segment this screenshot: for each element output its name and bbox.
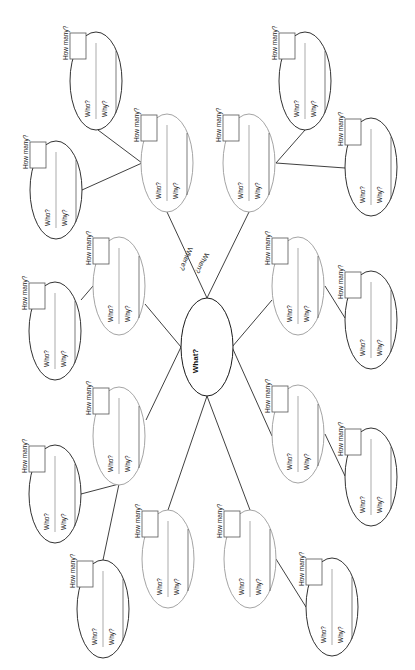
question-node: How many?Who?Why?	[264, 230, 324, 335]
who-label: Who?	[43, 350, 50, 367]
how-many-box[interactable]	[345, 429, 361, 455]
why-label: Why?	[310, 100, 318, 117]
question-node: How many?Who?Why?	[22, 134, 82, 239]
why-label: Why?	[60, 513, 68, 530]
who-label: Who?	[84, 100, 91, 117]
why-label: Why?	[173, 578, 181, 595]
why-label: Why?	[60, 350, 68, 367]
who-label: Who?	[359, 496, 366, 513]
connector-line	[207, 212, 249, 298]
question-node: How many?Who?Why?	[337, 421, 397, 526]
who-label: Who?	[237, 182, 244, 199]
who-label: Who?	[238, 578, 245, 595]
how-many-label: How many?	[62, 25, 70, 60]
why-label: Why?	[376, 339, 384, 356]
how-many-label: How many?	[264, 230, 272, 265]
connector-line	[145, 304, 181, 347]
how-many-label: How many?	[69, 553, 77, 588]
who-label: Who?	[155, 182, 162, 199]
what-ellipse	[181, 298, 233, 396]
connector-line	[82, 163, 142, 190]
who-label: Who?	[293, 100, 300, 117]
who-label: Who?	[107, 455, 114, 472]
how-many-label: How many?	[21, 438, 29, 473]
how-many-label: How many?	[264, 378, 272, 413]
connector-line	[103, 484, 119, 560]
how-many-label: How many?	[133, 107, 141, 142]
question-web-diagram: How many?Who?Why?How many?Who?Why?How ma…	[0, 0, 415, 670]
connector-line	[168, 396, 207, 510]
question-node: How many?Who?Why?	[298, 551, 358, 656]
why-label: Why?	[124, 305, 132, 322]
who-label: Who?	[44, 209, 51, 226]
how-many-label: How many?	[337, 421, 345, 456]
spoke-labels: Where? When?	[178, 246, 210, 274]
how-many-box[interactable]	[306, 559, 322, 585]
how-many-box[interactable]	[141, 115, 157, 141]
how-many-label: How many?	[337, 264, 345, 299]
who-label: Who?	[156, 578, 163, 595]
how-many-label: How many?	[134, 503, 142, 538]
how-many-box[interactable]	[223, 115, 239, 141]
how-many-label: How many?	[85, 230, 93, 265]
question-node: How many?Who?Why?	[133, 107, 193, 212]
how-many-label: How many?	[85, 380, 93, 415]
what-label: What?	[191, 349, 200, 374]
who-label: Who?	[107, 305, 114, 322]
how-many-label: How many?	[337, 111, 345, 146]
why-label: Why?	[124, 455, 132, 472]
who-label: Who?	[359, 339, 366, 356]
diagram-canvas: How many?Who?Why?How many?Who?Why?How ma…	[0, 0, 415, 670]
connector-line	[81, 484, 119, 494]
who-label: Who?	[359, 186, 366, 203]
how-many-box[interactable]	[30, 142, 46, 168]
connector-line	[232, 300, 272, 347]
connector-line	[146, 347, 181, 420]
question-node: How many?Who?Why?	[337, 111, 397, 216]
connector-line	[276, 130, 305, 163]
why-label: Why?	[172, 182, 180, 199]
where-label: Where?	[178, 246, 194, 271]
how-many-label: How many?	[21, 275, 29, 310]
who-label: Who?	[286, 453, 293, 470]
why-label: Why?	[254, 182, 262, 199]
how-many-label: How many?	[216, 503, 224, 538]
how-many-label: How many?	[298, 551, 306, 586]
question-node: How many?Who?Why?	[85, 230, 145, 335]
why-label: Why?	[376, 496, 384, 513]
how-many-box[interactable]	[70, 33, 86, 59]
how-many-box[interactable]	[29, 283, 45, 309]
central-node: What?	[181, 298, 233, 396]
how-many-box[interactable]	[93, 238, 109, 264]
question-node: How many?Who?Why?	[69, 553, 129, 658]
how-many-label: How many?	[22, 134, 30, 169]
how-many-box[interactable]	[142, 511, 158, 537]
question-node: How many?Who?Why?	[216, 503, 276, 608]
question-node: How many?Who?Why?	[21, 438, 81, 543]
question-node: How many?Who?Why?	[62, 25, 122, 130]
how-many-box[interactable]	[272, 238, 288, 264]
how-many-box[interactable]	[272, 386, 288, 412]
when-label: When?	[194, 252, 211, 275]
question-node: How many?Who?Why?	[264, 378, 324, 483]
how-many-box[interactable]	[93, 388, 109, 414]
how-many-box[interactable]	[77, 561, 93, 587]
how-many-box[interactable]	[224, 511, 240, 537]
who-label: Who?	[286, 305, 293, 322]
why-label: Why?	[255, 578, 263, 595]
how-many-box[interactable]	[279, 33, 295, 59]
connector-line	[81, 286, 93, 300]
who-label: Who?	[43, 513, 50, 530]
how-many-box[interactable]	[345, 119, 361, 145]
question-node: How many?Who?Why?	[337, 264, 397, 369]
question-node: How many?Who?Why?	[215, 107, 275, 212]
how-many-label: How many?	[271, 25, 279, 60]
why-label: Why?	[61, 209, 69, 226]
question-node: How many?Who?Why?	[85, 380, 145, 485]
why-label: Why?	[376, 186, 384, 203]
how-many-label: How many?	[215, 107, 223, 142]
how-many-box[interactable]	[345, 272, 361, 298]
how-many-box[interactable]	[29, 446, 45, 472]
question-node: How many?Who?Why?	[271, 25, 331, 130]
question-node: How many?Who?Why?	[134, 503, 194, 608]
